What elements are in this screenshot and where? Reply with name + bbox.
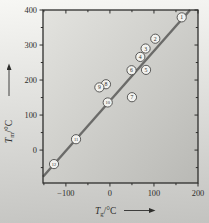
y-tick-label: 400	[24, 6, 37, 15]
data-point-number: 8	[105, 81, 108, 87]
data-point-number: 11	[74, 137, 78, 142]
data-point-number: 9	[98, 84, 101, 90]
data-point-5: 5	[141, 65, 150, 74]
data-point-number: 3	[144, 46, 147, 52]
y-tick-label: 0	[33, 146, 37, 155]
data-point-number: 4	[139, 54, 142, 60]
data-point-3: 3	[141, 44, 150, 53]
data-point-12: 12	[49, 159, 58, 168]
data-point-9: 9	[95, 83, 104, 92]
data-point-number: 12	[52, 162, 56, 167]
x-axis-label-text: Tg/°C	[95, 206, 116, 217]
y-tick-label: 200	[24, 76, 37, 85]
x-tick-label: −100	[57, 189, 74, 198]
x-tick-label: 200	[192, 189, 205, 198]
x-tick-label: 100	[148, 189, 161, 198]
data-point-7: 7	[127, 93, 136, 102]
data-point-11: 11	[71, 135, 80, 144]
data-point-number: 1	[180, 14, 183, 20]
plot-area	[43, 10, 198, 183]
data-point-number: 5	[145, 67, 148, 73]
data-point-number: 7	[130, 94, 133, 100]
data-point-4: 4	[136, 52, 145, 61]
tm-tg-scatter-chart: −10001002000100200300400123456789101112T…	[0, 0, 209, 223]
data-point-number: 2	[154, 36, 157, 42]
x-axis-label: Tg/°C	[95, 206, 150, 217]
data-point-1: 1	[177, 13, 186, 22]
tm-vs-tg-scatter-figure: −10001002000100200300400123456789101112T…	[0, 0, 209, 223]
y-axis-label: Tm/°C	[4, 69, 15, 143]
y-tick-label: 300	[24, 41, 37, 50]
data-point-10: 10	[103, 98, 112, 107]
data-point-2: 2	[151, 34, 160, 43]
data-point-6: 6	[127, 66, 136, 75]
y-tick-label: 100	[24, 111, 37, 120]
y-axis-label-text: Tm/°C	[4, 120, 15, 143]
x-tick-label: 0	[108, 189, 112, 198]
data-point-number: 6	[130, 67, 133, 73]
